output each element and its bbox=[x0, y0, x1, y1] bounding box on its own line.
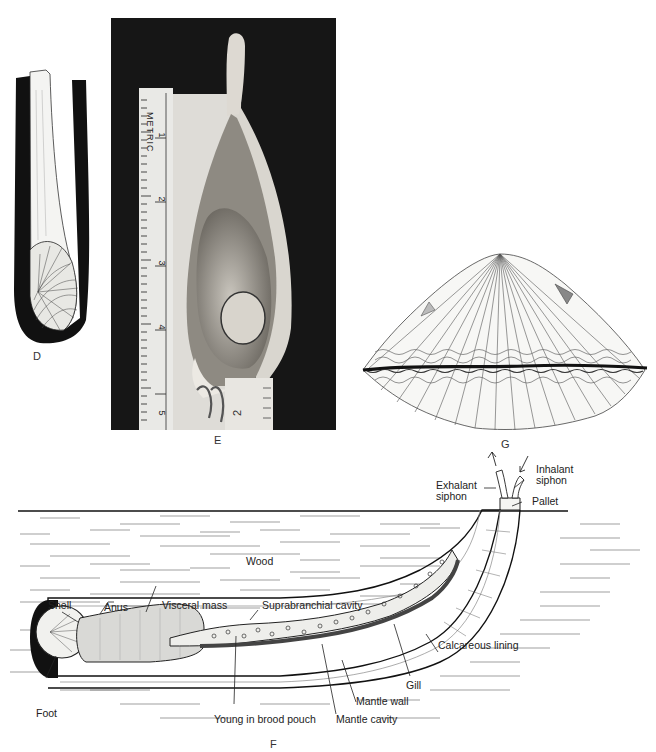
label-mantle-cavity: Mantle cavity bbox=[336, 714, 397, 725]
label-pallet: Pallet bbox=[532, 496, 558, 507]
label-shell: Shell bbox=[48, 600, 71, 611]
panel-d: D bbox=[0, 0, 110, 370]
label-young-in-brood-pouch: Young in brood pouch bbox=[214, 714, 316, 725]
secondary-ruler-tick: 2 bbox=[231, 410, 243, 416]
ruler-tick-5: 5 bbox=[157, 410, 167, 415]
label-gill: Gill bbox=[406, 680, 421, 691]
panel-g: G bbox=[355, 240, 655, 450]
panel-label-f: F bbox=[270, 738, 277, 750]
panel-label-e: E bbox=[214, 434, 221, 446]
shipworm-shell-drawing bbox=[0, 0, 110, 370]
panel-e: 2 METRIC 1 2 3 4 5 bbox=[111, 18, 336, 430]
label-exhalant-siphon: Exhalant siphon bbox=[436, 480, 477, 502]
label-mantle-wall: Mantle wall bbox=[356, 696, 409, 707]
label-foot: Foot bbox=[36, 708, 57, 719]
label-visceral-mass: Visceral mass bbox=[162, 600, 227, 611]
label-inhalant-siphon: Inhalant siphon bbox=[536, 464, 573, 486]
ruler-label: METRIC bbox=[145, 112, 155, 153]
ruler-tick-3: 3 bbox=[157, 260, 167, 265]
panel-label-g: G bbox=[501, 438, 510, 450]
ruler-tick-2: 2 bbox=[157, 196, 167, 201]
ruler-tick-4: 4 bbox=[157, 324, 167, 329]
label-calcareous-lining: Calcareous lining bbox=[438, 640, 519, 651]
label-suprabranchial-cavity: Suprabranchial cavity bbox=[262, 600, 362, 611]
cockle-shell-drawing bbox=[355, 240, 655, 450]
panel-label-d: D bbox=[33, 350, 41, 362]
specimen-photo: 2 bbox=[111, 18, 336, 430]
ruler-tick-1: 1 bbox=[157, 132, 167, 137]
panel-f: Exhalant siphon Inhalant siphon Pallet W… bbox=[0, 450, 656, 752]
label-anus: Anus bbox=[104, 602, 128, 613]
label-wood: Wood bbox=[246, 556, 273, 567]
